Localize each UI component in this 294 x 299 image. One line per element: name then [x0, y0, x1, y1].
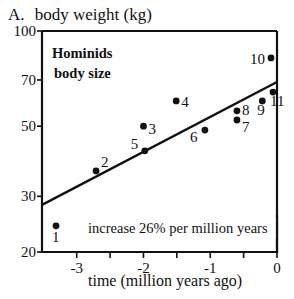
y-tick-label: 100 [14, 23, 37, 39]
data-point: 1 [52, 222, 60, 244]
x-tick-label: -3 [70, 260, 83, 276]
y-tick-label: 70 [21, 72, 36, 88]
point-label: 6 [190, 129, 198, 145]
point-label: 10 [250, 51, 265, 67]
chart-title: A. body weight (kg) [8, 5, 152, 24]
point-marker [141, 147, 148, 154]
data-point: 3 [140, 121, 156, 137]
y-tick-label: 20 [21, 244, 36, 260]
x-tick-label: 0 [273, 260, 281, 276]
trend-line [42, 82, 277, 205]
point-marker [234, 117, 241, 124]
y-tick-label: 30 [21, 188, 36, 204]
point-marker [93, 168, 100, 175]
point-label: 1 [52, 229, 60, 245]
y-axis-title: body weight (kg) [35, 5, 152, 24]
box-title-line2: body size [54, 65, 111, 81]
hominid-body-size-chart: A. body weight (kg) 20305070100 -3-2-10 … [0, 0, 294, 299]
point-label: 7 [242, 119, 250, 135]
y-axis-ticks: 20305070100 [14, 23, 43, 260]
point-marker [268, 55, 275, 62]
point-label: 2 [101, 154, 109, 170]
data-point: 5 [131, 136, 148, 154]
data-point: 10 [250, 51, 274, 67]
x-axis-title: time (million years ago) [88, 272, 242, 290]
data-point: 6 [190, 127, 208, 145]
box-title-line1: Hominids [52, 45, 113, 61]
point-label: 8 [242, 102, 250, 118]
data-point: 9 [257, 98, 265, 118]
y-tick-label: 50 [21, 118, 36, 134]
point-marker [173, 98, 180, 105]
point-marker [234, 107, 241, 114]
point-label: 11 [270, 93, 284, 109]
point-marker [201, 127, 208, 134]
point-label: 3 [148, 121, 156, 137]
point-label: 5 [131, 136, 139, 152]
point-label: 9 [257, 102, 265, 118]
data-point: 4 [173, 94, 189, 110]
point-marker [140, 123, 147, 130]
trend-annotation: increase 26% per million years [88, 220, 268, 236]
point-label: 4 [181, 94, 189, 110]
data-point: 7 [234, 117, 250, 135]
panel-label: A. [8, 5, 25, 24]
